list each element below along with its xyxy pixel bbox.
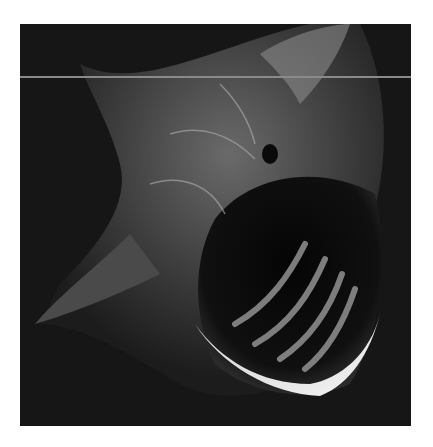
shark-illustration <box>20 24 411 426</box>
shark-photo <box>20 24 411 426</box>
horizontal-line-artifact <box>20 76 411 78</box>
